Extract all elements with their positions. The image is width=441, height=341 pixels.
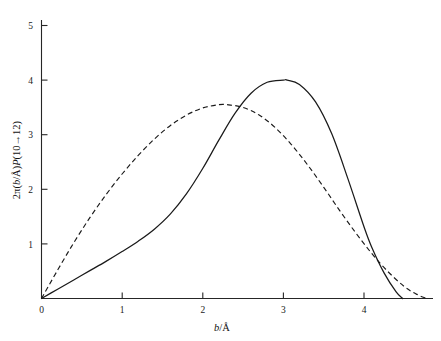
y-tick-label-2: 2 bbox=[28, 185, 33, 195]
x-axis-ticks bbox=[122, 293, 364, 299]
figure-container: 1 2 3 4 5 0 1 2 3 4 b/Å bbox=[0, 0, 441, 341]
y-tick-label-3: 3 bbox=[28, 130, 33, 140]
y-tick-label-4: 4 bbox=[28, 76, 33, 86]
y-tick-label-1: 1 bbox=[28, 240, 33, 250]
plot-area: 1 2 3 4 5 0 1 2 3 4 b/Å bbox=[0, 0, 441, 341]
dashed-curve bbox=[42, 104, 427, 298]
x-tick-label-2: 2 bbox=[200, 305, 205, 315]
y-tick-label-5: 5 bbox=[28, 21, 33, 31]
x-axis-title: b/Å bbox=[214, 322, 230, 333]
y-axis-title-prefix: 2π( bbox=[11, 185, 23, 200]
y-axis-tick-labels: 1 2 3 4 5 bbox=[28, 21, 33, 249]
svg-text:2π(b/Å)P(10→12): 2π(b/Å)P(10→12) bbox=[11, 120, 23, 199]
solid-curve bbox=[42, 80, 403, 299]
x-axis-tick-labels: 0 1 2 3 4 bbox=[39, 305, 367, 315]
x-tick-label-1: 1 bbox=[120, 305, 125, 315]
x-tick-label-0: 0 bbox=[39, 305, 44, 315]
x-axis-title-unit: Å bbox=[222, 322, 230, 333]
svg-text:b/Å: b/Å bbox=[214, 322, 230, 333]
y-axis-title-transition: (10→12) bbox=[11, 120, 23, 159]
x-tick-label-4: 4 bbox=[362, 305, 367, 315]
y-axis-ticks bbox=[42, 26, 48, 244]
x-tick-label-3: 3 bbox=[281, 305, 286, 315]
y-axis-title: 2π(b/Å)P(10→12) bbox=[11, 120, 23, 199]
